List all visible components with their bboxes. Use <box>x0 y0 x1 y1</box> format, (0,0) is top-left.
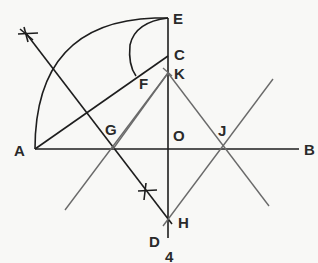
geometry-construction-diagram: E C K F A G O J B H D 4 <box>0 0 318 263</box>
label-j: J <box>218 123 226 138</box>
label-k: K <box>174 66 185 81</box>
label-b: B <box>304 142 315 157</box>
figure-number: 4 <box>165 249 173 263</box>
label-a: A <box>14 143 25 158</box>
label-e: E <box>173 11 183 26</box>
label-o: O <box>173 128 185 143</box>
arc-ef <box>130 18 168 76</box>
label-h: H <box>178 215 189 230</box>
label-g: G <box>105 122 117 137</box>
line-bisector <box>25 32 172 224</box>
star-mark-upper <box>18 27 38 42</box>
diagram-drawing <box>0 0 318 263</box>
label-c: C <box>174 47 185 62</box>
label-f: F <box>139 76 148 91</box>
line-hj-extended <box>163 79 273 226</box>
label-d: D <box>149 234 160 249</box>
